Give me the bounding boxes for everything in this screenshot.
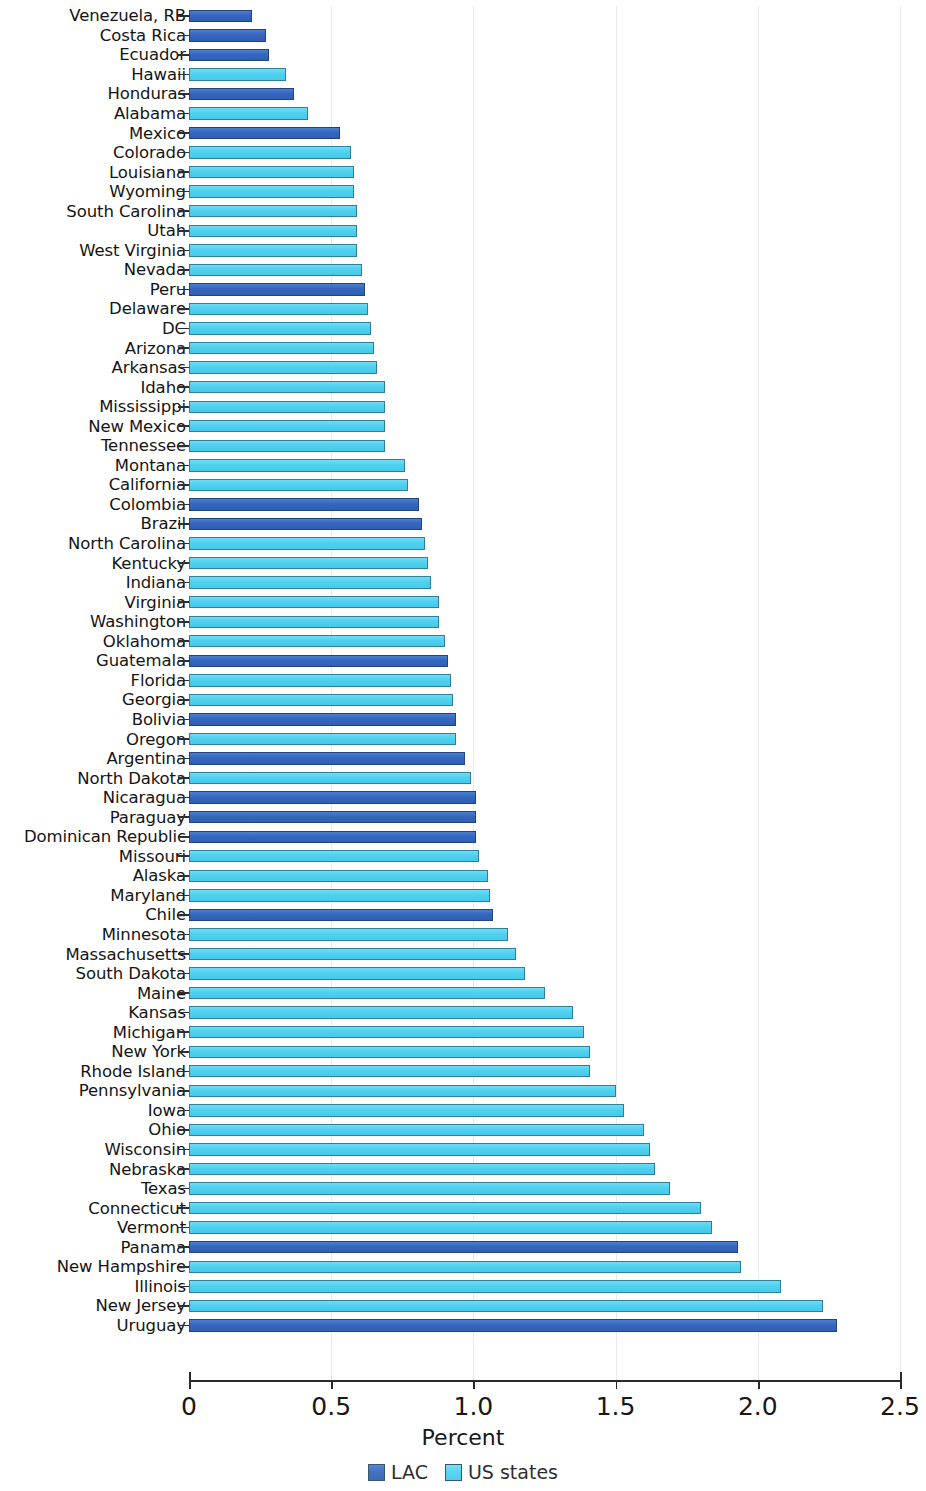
category-label: Kansas bbox=[0, 1004, 186, 1021]
category-label: North Carolina bbox=[0, 535, 186, 552]
bar-row: Honduras bbox=[0, 84, 926, 104]
bar bbox=[189, 635, 445, 647]
category-label: Nicaragua bbox=[0, 789, 186, 806]
bar-row: Connecticut bbox=[0, 1198, 926, 1218]
category-label: Rhode Island bbox=[0, 1063, 186, 1080]
bar bbox=[189, 498, 419, 510]
y-axis-tick bbox=[178, 386, 189, 388]
y-axis-tick bbox=[178, 1051, 189, 1053]
bar-row: North Carolina bbox=[0, 534, 926, 554]
y-axis-tick bbox=[178, 1286, 189, 1288]
bar-row: Paraguay bbox=[0, 807, 926, 827]
bar bbox=[189, 1241, 738, 1253]
category-label: Venezuela, RB bbox=[0, 7, 186, 24]
y-axis-tick bbox=[178, 582, 189, 584]
bar-row: Missouri bbox=[0, 847, 926, 867]
category-label: Connecticut bbox=[0, 1200, 186, 1217]
category-label: Utah bbox=[0, 222, 186, 239]
y-axis-tick bbox=[178, 1168, 189, 1170]
bar bbox=[189, 127, 340, 139]
bar bbox=[189, 303, 368, 315]
bar bbox=[189, 850, 479, 862]
bar bbox=[189, 49, 269, 61]
bar bbox=[189, 576, 431, 588]
y-axis-tick bbox=[178, 289, 189, 291]
category-label: Oregon bbox=[0, 731, 186, 748]
bar bbox=[189, 10, 252, 22]
category-label: Mexico bbox=[0, 125, 186, 142]
y-axis-tick bbox=[178, 562, 189, 564]
bar-row: Panama bbox=[0, 1237, 926, 1257]
category-label: Michigan bbox=[0, 1024, 186, 1041]
y-axis-tick bbox=[178, 328, 189, 330]
bar bbox=[189, 518, 422, 530]
x-axis-title: Percent bbox=[0, 1425, 926, 1450]
legend: LAC US states bbox=[0, 1461, 926, 1483]
y-axis-tick bbox=[178, 914, 189, 916]
y-axis-tick bbox=[178, 601, 189, 603]
y-axis-tick bbox=[178, 816, 189, 818]
category-label: Ohio bbox=[0, 1121, 186, 1138]
y-axis-tick bbox=[178, 797, 189, 799]
category-label: Illinois bbox=[0, 1278, 186, 1295]
bar-row: Louisiana bbox=[0, 162, 926, 182]
x-tick-label: 2.5 bbox=[860, 1392, 926, 1421]
bar-row: Nevada bbox=[0, 260, 926, 280]
category-label: Nebraska bbox=[0, 1161, 186, 1178]
bar-row: Georgia bbox=[0, 690, 926, 710]
bar-row: Brazil bbox=[0, 514, 926, 534]
x-tick-label: 0.5 bbox=[291, 1392, 371, 1421]
y-axis-tick bbox=[178, 699, 189, 701]
bar-row: Delaware bbox=[0, 299, 926, 319]
x-tick bbox=[758, 1380, 760, 1389]
category-label: Mississippi bbox=[0, 398, 186, 415]
bar bbox=[189, 1182, 670, 1194]
y-axis-tick bbox=[178, 543, 189, 545]
bar-row: Ohio bbox=[0, 1120, 926, 1140]
bar bbox=[189, 322, 371, 334]
bar bbox=[189, 596, 439, 608]
x-tick-label: 1.5 bbox=[576, 1392, 656, 1421]
bar bbox=[189, 987, 545, 999]
legend-swatch-lac-icon bbox=[368, 1464, 385, 1481]
bar bbox=[189, 831, 476, 843]
bar bbox=[189, 655, 448, 667]
category-label: Florida bbox=[0, 672, 186, 689]
y-axis-tick bbox=[178, 1071, 189, 1073]
y-axis-tick bbox=[178, 191, 189, 193]
bar-row: New Hampshire bbox=[0, 1257, 926, 1277]
bar-row: Maryland bbox=[0, 886, 926, 906]
bar bbox=[189, 674, 451, 686]
bar bbox=[189, 537, 425, 549]
bar bbox=[189, 1026, 584, 1038]
bar bbox=[189, 1163, 655, 1175]
legend-label-lac: LAC bbox=[391, 1461, 428, 1483]
x-tick-label: 1.0 bbox=[433, 1392, 513, 1421]
bar-row: Texas bbox=[0, 1179, 926, 1199]
y-axis-tick bbox=[178, 680, 189, 682]
bar-row: Idaho bbox=[0, 377, 926, 397]
category-label: Kentucky bbox=[0, 555, 186, 572]
category-label: Minnesota bbox=[0, 926, 186, 943]
bar bbox=[189, 752, 465, 764]
bar-row: Montana bbox=[0, 456, 926, 476]
category-label: Virginia bbox=[0, 594, 186, 611]
bar-row: New York bbox=[0, 1042, 926, 1062]
bar bbox=[189, 68, 286, 80]
bar-row: Kansas bbox=[0, 1003, 926, 1023]
bar-row: Nicaragua bbox=[0, 788, 926, 808]
bar bbox=[189, 772, 471, 784]
bar bbox=[189, 811, 476, 823]
bar-row: Tennessee bbox=[0, 436, 926, 456]
y-axis-tick bbox=[178, 1031, 189, 1033]
bar bbox=[189, 244, 357, 256]
category-label: New Mexico bbox=[0, 418, 186, 435]
category-label: North Dakota bbox=[0, 770, 186, 787]
bar-row: Wisconsin bbox=[0, 1140, 926, 1160]
bar bbox=[189, 459, 405, 471]
bar bbox=[189, 1319, 837, 1331]
y-axis-tick bbox=[178, 895, 189, 897]
category-label: South Carolina bbox=[0, 203, 186, 220]
category-label: Colombia bbox=[0, 496, 186, 513]
bar-row: West Virginia bbox=[0, 241, 926, 261]
